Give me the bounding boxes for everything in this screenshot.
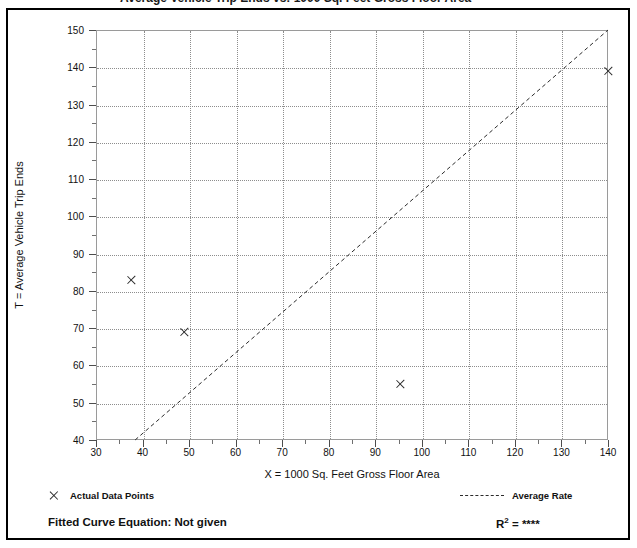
x-tick-major	[561, 440, 562, 447]
legend-label-average-rate: Average Rate	[512, 490, 572, 501]
y-tick-major	[89, 328, 96, 329]
x-tick-major	[96, 440, 97, 447]
y-tick-major	[89, 216, 96, 217]
chart-footer: Fitted Curve Equation: Not given R2 = **…	[0, 516, 637, 538]
x-tick-label: 130	[553, 447, 570, 458]
cross-marker-icon	[48, 490, 59, 501]
y-tick-label: 50	[73, 397, 84, 408]
x-tick-major	[143, 440, 144, 447]
y-tick-label: 80	[73, 285, 84, 296]
fitted-curve-equation: Fitted Curve Equation: Not given	[48, 516, 227, 528]
data-point-marker	[126, 274, 137, 285]
x-tick-label: 30	[90, 447, 101, 458]
legend-label-data-points: Actual Data Points	[70, 490, 154, 501]
y-tick-label: 40	[73, 435, 84, 446]
gridline-horizontal	[97, 329, 607, 330]
gridline-vertical	[562, 31, 563, 439]
x-tick-minor	[119, 440, 120, 444]
x-tick-minor	[352, 440, 353, 444]
x-tick-label: 140	[600, 447, 617, 458]
y-tick-major	[89, 403, 96, 404]
data-point-marker	[395, 379, 406, 390]
x-tick-major	[515, 440, 516, 447]
x-tick-major	[189, 440, 190, 447]
gridline-vertical	[423, 31, 424, 439]
legend-entry-average-rate: Average Rate	[460, 490, 572, 501]
x-tick-label: 60	[230, 447, 241, 458]
x-tick-minor	[538, 440, 539, 444]
gridline-horizontal	[97, 366, 607, 367]
y-tick-minor	[92, 123, 96, 124]
x-tick-minor	[166, 440, 167, 444]
gridline-horizontal	[97, 404, 607, 405]
r-squared-value: R2 = ****	[496, 516, 540, 530]
chart-page: Average Vehicle Trip Ends vs: 1000 Sq. F…	[0, 0, 637, 548]
y-tick-minor	[92, 310, 96, 311]
y-tick-major	[89, 30, 96, 31]
y-tick-major	[89, 440, 96, 441]
y-tick-major	[89, 365, 96, 366]
r-squared-equals: = ****	[512, 518, 540, 530]
x-tick-minor	[212, 440, 213, 444]
gridline-horizontal	[97, 180, 607, 181]
y-tick-label: 140	[67, 62, 84, 73]
x-tick-label: 40	[137, 447, 148, 458]
x-tick-label: 110	[460, 447, 476, 458]
y-tick-minor	[92, 198, 96, 199]
x-tick-label: 80	[323, 447, 334, 458]
x-tick-minor	[445, 440, 446, 444]
x-tick-minor	[585, 440, 586, 444]
y-tick-minor	[92, 421, 96, 422]
x-tick-minor	[305, 440, 306, 444]
x-tick-minor	[492, 440, 493, 444]
x-tick-label: 120	[507, 447, 524, 458]
y-tick-major	[89, 67, 96, 68]
y-tick-major	[89, 179, 96, 180]
x-tick-major	[468, 440, 469, 447]
y-tick-label: 70	[73, 323, 84, 334]
x-tick-label: 90	[370, 447, 381, 458]
y-tick-minor	[92, 384, 96, 385]
x-tick-major	[282, 440, 283, 447]
x-tick-label: 50	[184, 447, 195, 458]
x-tick-major	[375, 440, 376, 447]
chart-legend: Actual Data Points Average Rate	[0, 490, 637, 510]
gridline-vertical	[376, 31, 377, 439]
plot-area	[96, 30, 608, 440]
gridline-vertical	[469, 31, 470, 439]
y-tick-label: 130	[67, 99, 84, 110]
y-tick-label: 100	[67, 211, 84, 222]
x-tick-label: 70	[277, 447, 288, 458]
r-squared-exponent: 2	[504, 516, 508, 525]
y-tick-minor	[92, 86, 96, 87]
gridline-vertical	[190, 31, 191, 439]
x-tick-label: 100	[413, 447, 430, 458]
y-tick-major	[89, 291, 96, 292]
y-tick-major	[89, 105, 96, 106]
gridline-horizontal	[97, 143, 607, 144]
y-tick-label: 60	[73, 360, 84, 371]
y-tick-minor	[92, 160, 96, 161]
gridline-horizontal	[97, 68, 607, 69]
y-tick-minor	[92, 272, 96, 273]
y-tick-label: 110	[68, 174, 84, 185]
gridline-horizontal	[97, 217, 607, 218]
gridline-horizontal	[97, 106, 607, 107]
y-tick-major	[89, 142, 96, 143]
x-tick-major	[329, 440, 330, 447]
gridline-vertical	[283, 31, 284, 439]
y-tick-minor	[92, 49, 96, 50]
y-axis-title: T = Average Vehicle Trip Ends	[13, 161, 25, 308]
x-axis-title: X = 1000 Sq. Feet Gross Floor Area	[96, 468, 608, 480]
gridline-horizontal	[97, 292, 607, 293]
y-tick-major	[89, 254, 96, 255]
x-tick-major	[608, 440, 609, 447]
y-tick-label: 90	[73, 248, 84, 259]
gridline-vertical	[237, 31, 238, 439]
x-tick-minor	[399, 440, 400, 444]
gridline-horizontal	[97, 255, 607, 256]
y-tick-label: 150	[67, 25, 84, 36]
dashed-line-icon	[460, 495, 504, 496]
x-tick-minor	[259, 440, 260, 444]
gridline-vertical	[330, 31, 331, 439]
